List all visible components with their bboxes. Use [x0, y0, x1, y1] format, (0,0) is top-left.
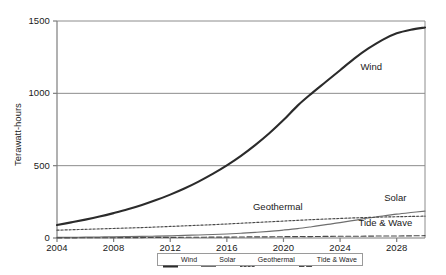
series-group: [57, 28, 425, 238]
x-tick-label: 2004: [32, 242, 82, 253]
line-chart: Terawatt-hours 050010001500 200420082012…: [0, 0, 446, 275]
annotation-solar: Solar: [367, 192, 423, 203]
annotation-geothermal: Geothermal: [250, 201, 306, 212]
y-tick-label: 500: [0, 160, 50, 171]
grid-group: [57, 21, 425, 238]
plot-canvas: [0, 0, 446, 275]
x-tick-label: 2016: [202, 242, 252, 253]
legend-swatch-solid-thin: [201, 256, 216, 263]
x-tick-label: 2020: [258, 242, 308, 253]
axes-group: [53, 21, 425, 242]
legend-swatch-dotted: [240, 256, 255, 263]
legend-swatch-dashed: [299, 256, 314, 263]
x-tick-label: 2024: [315, 242, 365, 253]
chart-legend: WindSolarGeothermalTide & Wave: [157, 253, 363, 266]
legend-label: Tide & Wave: [317, 256, 357, 263]
y-tick-label: 1000: [0, 87, 50, 98]
legend-swatch-solid-thick: [163, 256, 178, 263]
annotation-wind: Wind: [343, 61, 399, 72]
x-tick-label: 2012: [145, 242, 195, 253]
legend-label: Geothermal: [258, 256, 295, 263]
x-tick-label: 2028: [372, 242, 422, 253]
legend-entry-tide-wave[interactable]: Tide & Wave: [299, 256, 357, 263]
y-tick-label: 1500: [0, 15, 50, 26]
legend-entry-geothermal[interactable]: Geothermal: [240, 256, 295, 263]
legend-entry-solar[interactable]: Solar: [201, 256, 236, 263]
legend-label: Wind: [181, 256, 197, 263]
y-axis-title: Terawatt-hours: [12, 103, 23, 166]
x-tick-label: 2008: [89, 242, 139, 253]
legend-entry-wind[interactable]: Wind: [163, 256, 197, 263]
legend-label: Solar: [219, 256, 236, 263]
annotation-tide-wave: Tide & Wave: [357, 217, 413, 228]
